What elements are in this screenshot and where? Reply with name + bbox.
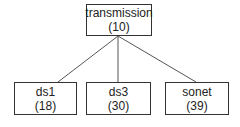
edge-transmission-sonet xyxy=(118,36,196,82)
node-transmission: transmission (10) xyxy=(86,4,152,36)
node-count: (39) xyxy=(186,99,207,113)
node-ds3: ds3 (30) xyxy=(86,82,151,115)
node-label: sonet xyxy=(182,85,211,99)
node-label: ds3 xyxy=(109,85,128,99)
node-count: (30) xyxy=(108,99,129,113)
node-count: (18) xyxy=(35,99,56,113)
node-sonet: sonet (39) xyxy=(165,82,229,115)
node-count: (10) xyxy=(108,20,129,34)
node-label: ds1 xyxy=(36,85,55,99)
node-ds1: ds1 (18) xyxy=(14,82,77,115)
edge-transmission-ds1 xyxy=(58,36,118,82)
node-label: transmission xyxy=(85,6,152,20)
